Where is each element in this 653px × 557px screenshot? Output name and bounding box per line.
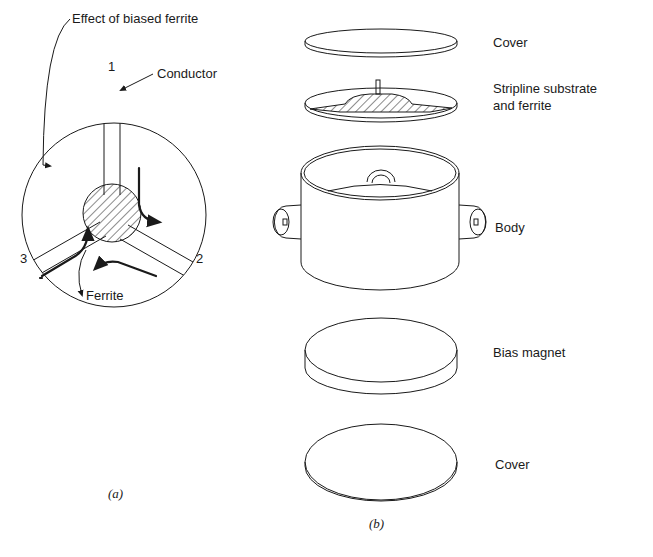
label-bias-magnet: Bias magnet: [493, 345, 566, 360]
flow-arrow-1-to-2: [139, 168, 158, 222]
ferrite-disc: [83, 184, 141, 242]
panel-b-exploded-view: Cover Stripline substrate and ferrite: [273, 29, 597, 531]
leader-conductor: [121, 74, 153, 90]
right-connector: [459, 205, 486, 239]
caption-b: (b): [369, 516, 384, 531]
label-stripline-line2: and ferrite: [493, 98, 552, 113]
top-cover: [305, 29, 457, 57]
label-stripline-line1: Stripline substrate: [493, 81, 597, 96]
label-effect-of-biased-ferrite: Effect of biased ferrite: [72, 11, 198, 26]
caption-a: (a): [108, 486, 123, 501]
substrate-ferrite-pattern: [310, 94, 452, 112]
left-connector: [273, 205, 301, 239]
stripline-substrate: [305, 80, 457, 122]
panel-a-junction-diagram: Effect of biased ferrite Conductor Ferri…: [20, 11, 218, 501]
flow-arrow-2-to-3: [96, 262, 156, 276]
port-3-label: 3: [20, 251, 27, 266]
label-cover-top: Cover: [493, 35, 528, 50]
label-conductor: Conductor: [157, 66, 218, 81]
bias-magnet: [305, 318, 457, 394]
center-pin: [367, 170, 395, 183]
label-body: Body: [495, 220, 525, 235]
circulator-body: [273, 146, 486, 290]
bottom-cover: [305, 424, 457, 501]
port-2-label: 2: [196, 251, 203, 266]
label-ferrite: Ferrite: [86, 288, 124, 303]
flow-arrow-3-to-1: [40, 230, 88, 278]
label-cover-bottom: Cover: [495, 457, 530, 472]
leader-ferrite: [79, 250, 86, 295]
leader-effect: [43, 19, 70, 166]
circulator-figure: Effect of biased ferrite Conductor Ferri…: [0, 0, 653, 557]
port-1-label: 1: [108, 59, 115, 74]
